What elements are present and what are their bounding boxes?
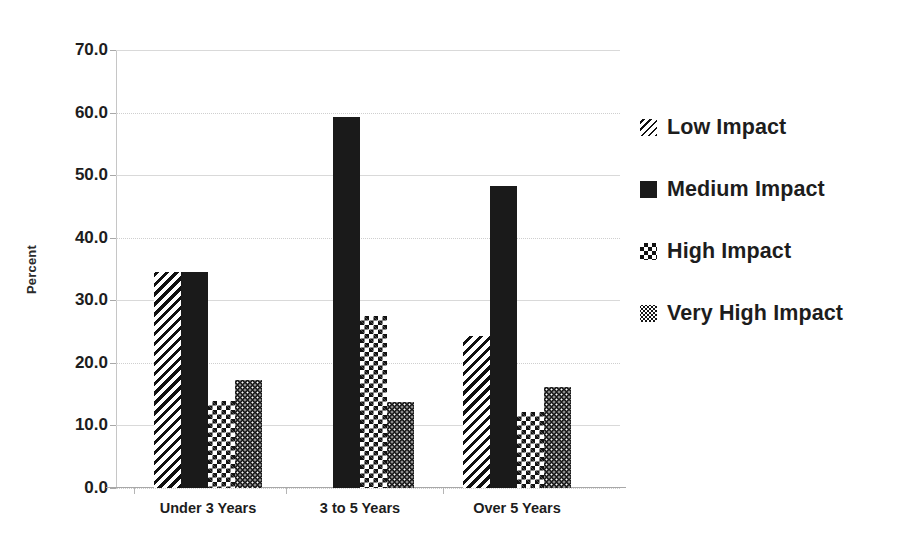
legend-label: Low Impact [667, 115, 786, 140]
bar [208, 401, 235, 488]
legend-swatch-icon [640, 305, 657, 322]
legend-item[interactable]: Very High Impact [640, 282, 914, 344]
y-axis-tickmark [110, 50, 116, 51]
legend-label: Medium Impact [667, 177, 825, 202]
legend-item[interactable]: Medium Impact [640, 158, 914, 220]
x-axis-tickmark [134, 488, 135, 494]
y-axis-tick-label: 0.0 [52, 478, 108, 498]
bar [463, 336, 490, 488]
y-axis-tick-label: 10.0 [52, 415, 108, 435]
bar [517, 412, 544, 488]
x-axis-category-label: Under 3 Years [160, 500, 256, 516]
y-axis-tick-label: 60.0 [52, 103, 108, 123]
y-axis-tick-label: 30.0 [52, 290, 108, 310]
y-axis-tickmark [110, 425, 116, 426]
bar [490, 186, 517, 488]
y-axis-title: Percent [24, 215, 39, 325]
legend-label: Very High Impact [667, 301, 843, 326]
y-axis-tick-label: 50.0 [52, 165, 108, 185]
gridline [116, 238, 620, 239]
gridline [116, 113, 620, 114]
bar-chart: Percent 0.010.020.030.040.050.060.070.0 … [0, 0, 914, 552]
gridline [116, 50, 620, 51]
gridline [116, 175, 620, 176]
bar [181, 272, 208, 488]
y-axis-tickmark [110, 363, 116, 364]
legend-swatch-icon [640, 181, 657, 198]
x-axis-category-label: Over 5 Years [473, 500, 561, 516]
plot-area [116, 50, 620, 488]
bar [387, 402, 414, 488]
legend-label: High Impact [667, 239, 791, 264]
y-axis-tickmark [110, 113, 116, 114]
x-axis-category-labels: Under 3 Years3 to 5 YearsOver 5 Years [116, 500, 620, 530]
y-axis-tickmark [110, 238, 116, 239]
legend-item[interactable]: Low Impact [640, 96, 914, 158]
bar [544, 387, 571, 488]
legend-swatch-icon [640, 243, 657, 260]
y-axis-tick-labels: 0.010.020.030.040.050.060.070.0 [52, 0, 108, 552]
y-axis-tickmark [110, 488, 116, 489]
legend-item[interactable]: High Impact [640, 220, 914, 282]
bar [360, 316, 387, 488]
x-axis-category-label: 3 to 5 Years [320, 500, 400, 516]
bar [235, 380, 262, 488]
chart-legend: Low ImpactMedium ImpactHigh ImpactVery H… [640, 96, 914, 344]
bar [154, 272, 181, 488]
gridline [116, 488, 620, 489]
x-axis-tickmark [286, 488, 287, 494]
y-axis-tick-label: 20.0 [52, 353, 108, 373]
y-axis-tick-label: 40.0 [52, 228, 108, 248]
x-axis-tickmark [443, 488, 444, 494]
y-axis-tick-label: 70.0 [52, 40, 108, 60]
legend-swatch-icon [640, 119, 657, 136]
bar [333, 117, 360, 488]
y-axis-tickmark [110, 300, 116, 301]
y-axis-line [116, 50, 117, 488]
y-axis-tickmark [110, 175, 116, 176]
